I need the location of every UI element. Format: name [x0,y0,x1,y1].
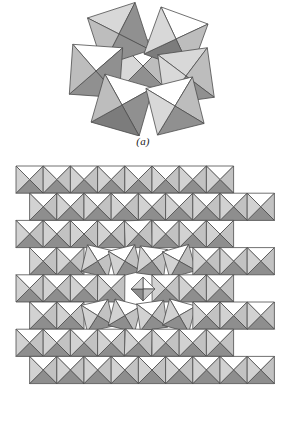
octahedron-unit [152,220,179,247]
octahedron-unit [30,193,57,220]
octahedron-unit [70,220,97,247]
octahedron-unit [179,166,206,193]
octahedron-unit [81,245,114,278]
octahedron-face-left-b-core [131,277,143,289]
octahedron-unit [137,300,168,331]
octahedron-unit [16,220,43,247]
octahedron-unit [125,166,152,193]
octahedron-unit [247,248,274,275]
octahedron-unit [166,193,193,220]
octahedron-unit [57,193,84,220]
octahedron-unit [137,246,168,277]
octahedron-unit [206,166,233,193]
octahedron-unit [138,193,165,220]
octahedron-unit [70,275,97,302]
octahedron-unit [152,166,179,193]
octahedron-unit [111,356,138,383]
octahedron-unit [30,302,57,329]
octahedron-unit [124,329,152,357]
octahedron-unit [193,248,220,275]
octahedron-unit [111,193,138,220]
octahedron-unit [16,275,43,302]
octahedron-unit [247,356,274,383]
panel-a-diagram [0,0,286,136]
octahedron-unit [220,302,247,329]
octahedron-unit [166,356,193,383]
octahedron-unit [179,220,206,247]
octahedron-unit [43,329,70,356]
octahedron-unit [81,299,114,332]
octahedron-unit [124,220,152,248]
octahedron-unit [152,329,179,356]
octahedron-unit [193,356,220,383]
octahedron-unit [247,193,274,220]
octahedron-unit [220,248,247,275]
octahedron-unit [138,356,165,383]
octahedron-unit [97,275,124,302]
octahedron-unit [57,248,84,275]
octahedron-unit [70,329,97,356]
octahedron-unit [98,166,125,193]
octahedron-unit [43,166,70,193]
figure-page: (a) (b) [0,0,286,433]
figure-panel-b: (b) [0,158,286,433]
octahedron-unit [152,275,180,303]
octahedron-unit [220,193,247,220]
octahedron-unit [108,245,141,278]
octahedron-unit [206,275,233,302]
octahedron-unit [131,277,155,301]
octahedron-unit [98,220,125,247]
octahedron-unit [98,329,125,356]
figure-panel-a: (a) [0,0,286,158]
octahedron-unit [84,193,111,220]
octahedron-unit [179,329,206,356]
octahedron-unit [220,356,247,383]
octahedron-unit [30,248,57,275]
octahedron-unit [30,356,57,383]
octahedron-unit [193,193,220,220]
octahedron-unit [43,220,70,247]
octahedron-unit [70,166,97,193]
octahedron-unit [16,166,43,193]
panel-b-diagram [0,158,286,411]
octahedron-unit [57,356,84,383]
octahedron-unit [43,275,70,302]
octahedron-unit [206,329,233,356]
octahedron-unit [247,302,274,329]
octahedron-unit [57,302,84,329]
panel-a-caption: (a) [0,136,286,147]
octahedron-unit [16,329,43,356]
octahedron-unit [84,356,111,383]
octahedron-face-bottom-b-core [131,289,143,301]
octahedron-unit [193,302,220,329]
octahedron-unit [179,275,206,302]
octahedron-unit [206,220,233,247]
